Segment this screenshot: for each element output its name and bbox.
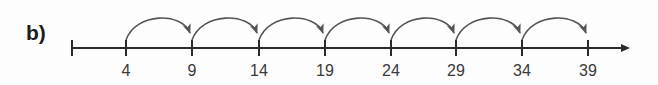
tick-label: 29 xyxy=(447,62,465,79)
tick-label: 39 xyxy=(579,62,597,79)
tick-label: 14 xyxy=(250,62,268,79)
tick-label: 4 xyxy=(122,62,131,79)
jump-arc xyxy=(259,18,323,40)
axis-group xyxy=(72,40,622,56)
number-line-figure: b) xyxy=(0,0,658,85)
tick-label-group: 4 9 14 19 24 29 34 39 xyxy=(122,62,597,79)
jump-arc-group xyxy=(126,18,586,40)
tick-label: 9 xyxy=(188,62,197,79)
jump-arc xyxy=(522,18,586,40)
jump-arc xyxy=(192,18,257,40)
jump-arc xyxy=(456,18,520,40)
jump-arc xyxy=(325,18,389,40)
tick-label: 24 xyxy=(382,62,400,79)
number-line-diagram: 4 9 14 19 24 29 34 39 xyxy=(0,0,658,85)
tick-label: 19 xyxy=(316,62,334,79)
tick-label: 34 xyxy=(513,62,531,79)
jump-arc xyxy=(126,18,190,40)
jump-arc xyxy=(391,18,454,40)
